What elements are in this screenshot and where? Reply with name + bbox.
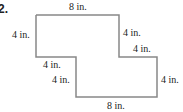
label-middle-left-horizontal: 4 in.	[43, 60, 61, 70]
label-top: 8 in.	[69, 2, 87, 12]
label-bottom: 8 in.	[107, 101, 125, 111]
label-left: 4 in.	[12, 30, 30, 40]
label-lower-right-vertical: 4 in.	[161, 75, 179, 85]
label-middle-left-vertical: 4 in.	[52, 75, 70, 85]
label-upper-right-horizontal: 4 in.	[133, 44, 151, 54]
label-upper-right-vertical: 4 in.	[123, 28, 141, 38]
composite-shape	[0, 0, 183, 112]
